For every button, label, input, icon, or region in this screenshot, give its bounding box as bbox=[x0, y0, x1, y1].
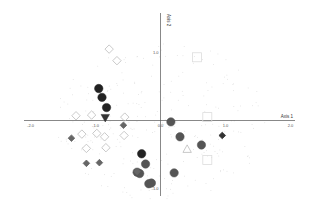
data-point-black-circles bbox=[137, 150, 145, 158]
data-point-open-diamonds bbox=[113, 56, 121, 64]
data-point-open-diamonds bbox=[120, 131, 128, 139]
data-point-open-diamonds bbox=[105, 45, 113, 53]
x-tick-label: 1.0 bbox=[223, 123, 229, 128]
data-point-open-diamonds bbox=[102, 144, 110, 152]
data-point-gray-diamonds-filled bbox=[120, 122, 127, 129]
data-point-black-circles bbox=[98, 93, 106, 101]
x-tick-label: 2.0 bbox=[288, 123, 294, 128]
data-point-gray-circles bbox=[141, 160, 149, 168]
data-point-gray-circles bbox=[147, 179, 155, 187]
data-point-black-circles bbox=[95, 84, 103, 92]
data-point-open-diamonds bbox=[82, 144, 90, 152]
data-point-gray-circles bbox=[197, 141, 205, 149]
data-point-gray-circles bbox=[167, 118, 175, 126]
data-point-open-squares bbox=[192, 53, 201, 62]
scatter-chart: -2.0-1.00.01.02.0 1.0-1.0 Axis 1 Axis 2 bbox=[0, 0, 311, 209]
x-axis-label: Axis 1 bbox=[281, 114, 294, 119]
y-tick-label: 1.0 bbox=[153, 50, 159, 55]
data-point-open-diamonds bbox=[72, 112, 80, 120]
data-point-gray-circles bbox=[170, 169, 178, 177]
x-tick-label: -1.0 bbox=[92, 123, 100, 128]
background-speckle bbox=[58, 44, 265, 200]
data-point-open-diamonds bbox=[87, 111, 95, 119]
y-axis-label: Axis 2 bbox=[166, 14, 171, 27]
x-tick-label: 0.0 bbox=[158, 123, 164, 128]
data-point-open-triangle bbox=[183, 145, 191, 153]
data-point-black-circles bbox=[102, 103, 110, 111]
data-point-open-diamonds bbox=[121, 113, 129, 121]
data-point-dark-diamond-filled bbox=[219, 132, 226, 139]
data-point-open-diamonds bbox=[78, 130, 86, 138]
data-point-gray-diamonds-filled bbox=[68, 135, 75, 142]
data-points bbox=[68, 45, 225, 188]
data-point-gray-circles bbox=[176, 133, 184, 141]
data-point-open-diamonds bbox=[100, 133, 108, 141]
data-point-open-diamonds bbox=[93, 129, 101, 137]
x-tick-labels: -2.0-1.00.01.02.0 bbox=[27, 123, 294, 128]
data-point-gray-diamonds-filled bbox=[83, 160, 90, 167]
data-point-gray-diamonds-filled bbox=[96, 159, 103, 166]
data-point-open-squares bbox=[203, 155, 212, 164]
x-tick-label: -2.0 bbox=[27, 123, 35, 128]
